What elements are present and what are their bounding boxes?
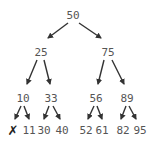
tree-node-25: 25: [34, 47, 47, 58]
arrow-edge-n56-n52: [88, 106, 94, 119]
arrow-edge-n10-n11: [24, 106, 29, 119]
tree-node-61: 61: [95, 125, 108, 136]
tree-node-56: 56: [89, 93, 102, 104]
arrow-edge-n25-n33: [44, 60, 50, 84]
null-child-x-icon: ✗: [8, 124, 19, 137]
arrow-edge-n50-n75: [79, 23, 101, 38]
arrow-edge-n56-n61: [97, 106, 102, 119]
arrow-edge-n50-n25: [48, 23, 68, 38]
tree-node-75: 75: [101, 47, 114, 58]
tree-node-95: 95: [133, 125, 146, 136]
arrow-edge-n33-n30: [44, 106, 49, 119]
tree-node-30: 30: [37, 125, 50, 136]
tree-node-33: 33: [44, 93, 57, 104]
tree-node-82: 82: [116, 125, 129, 136]
arrow-edge-n10-null: [15, 106, 21, 119]
tree-node-11: 11: [22, 125, 35, 136]
arrow-edge-n33-n40: [53, 106, 60, 119]
tree-node-89: 89: [120, 93, 133, 104]
tree-node-52: 52: [79, 125, 92, 136]
tree-node-50: 50: [66, 10, 79, 21]
tree-node-40: 40: [55, 125, 68, 136]
binary-tree-diagram: 5025751033568911304052618295✗: [0, 0, 157, 145]
arrow-edge-n89-n82: [121, 106, 126, 119]
arrow-edge-n25-n10: [27, 60, 37, 84]
arrow-edge-n75-n89: [112, 60, 124, 84]
tree-node-10: 10: [16, 93, 29, 104]
arrow-edge-n89-n95: [129, 106, 136, 119]
arrow-edge-n75-n56: [98, 60, 104, 84]
